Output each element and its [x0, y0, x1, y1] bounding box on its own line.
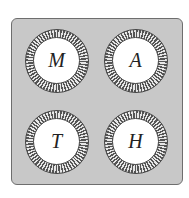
tile-bottom-right: H	[104, 110, 168, 174]
tile-face: T	[33, 118, 80, 165]
tile-face: H	[112, 118, 159, 165]
tile-label: M	[48, 49, 65, 72]
tile-label: T	[51, 130, 62, 153]
tile-top-left: M	[25, 29, 89, 93]
tile-top-right: A	[104, 29, 168, 93]
tile-bottom-left: T	[25, 110, 89, 174]
board-panel: M A T H	[11, 18, 183, 185]
tile-label: H	[128, 130, 142, 153]
tile-face: M	[33, 37, 80, 84]
tile-label: A	[129, 49, 141, 72]
tile-face: A	[112, 37, 159, 84]
